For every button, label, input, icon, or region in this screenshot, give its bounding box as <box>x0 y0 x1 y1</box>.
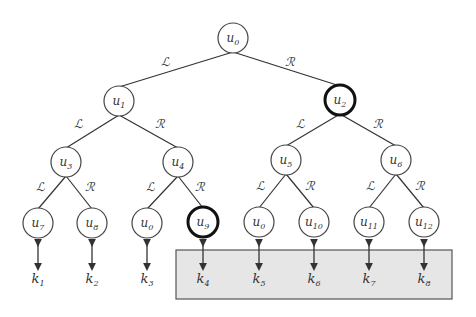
edge-label: ℒ <box>366 179 375 193</box>
tree-node-u0_root: u0 <box>218 23 248 53</box>
edge-label: ℛ <box>195 180 206 194</box>
edge-label: ℛ <box>415 179 426 193</box>
tree-node-u3: u3 <box>51 147 81 177</box>
tree-node-u11: u11 <box>354 207 384 237</box>
tree-node-u0_leaf_b: u0 <box>244 207 274 237</box>
edge-label: ℛ <box>155 117 166 131</box>
edge-label: ℛ <box>85 180 96 194</box>
tree-node-u5: u5 <box>271 145 301 175</box>
key-label: k1 <box>32 271 45 288</box>
tree-edge <box>340 114 396 146</box>
edge-label: ℛ <box>305 179 316 193</box>
tree-node-u12: u12 <box>409 207 439 237</box>
edge-label: ℒ <box>146 180 155 194</box>
tree-node-u8: u8 <box>77 208 107 238</box>
tree-node-u7: u7 <box>23 208 53 238</box>
tree-node-u6: u6 <box>381 145 411 175</box>
binary-tree-diagram: ℒℛℒℛℒℛℒℛℒℛℒℛℒℛ u0u1u2u3u4u5u6u7u8u0u9u0u… <box>0 0 476 317</box>
key-label: k3 <box>141 271 154 288</box>
tree-node-u0_leaf_a: u0 <box>132 208 162 238</box>
edge-label: ℒ <box>36 180 45 194</box>
edge-label: ℒ <box>74 117 83 131</box>
edge-label: ℛ <box>285 55 296 69</box>
tree-node-u10: u10 <box>299 207 329 237</box>
key-label: k2 <box>86 271 99 288</box>
edge-label: ℒ <box>296 117 305 131</box>
tree-edge <box>286 114 340 146</box>
edge-label: ℛ <box>373 117 384 131</box>
tree-node-u1: u1 <box>104 86 134 116</box>
tree-edge <box>119 115 178 148</box>
tree-node-u4: u4 <box>163 147 193 177</box>
tree-node-u2: u2 <box>325 85 355 115</box>
tree-node-u9: u9 <box>188 207 218 237</box>
edge-labels: ℒℛℒℛℒℛℒℛℒℛℒℛℒℛ <box>36 55 427 194</box>
tree-edge <box>119 52 233 87</box>
edge-label: ℒ <box>161 55 170 69</box>
edge-label: ℒ <box>256 179 265 193</box>
